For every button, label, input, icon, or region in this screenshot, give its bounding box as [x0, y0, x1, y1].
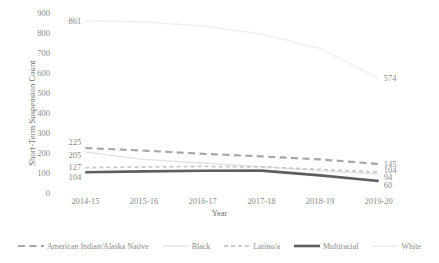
y-axis-tick: 900: [37, 9, 50, 18]
legend-line-icon: [18, 242, 44, 250]
line-chart: Short-Term Suspension Count 900800700600…: [0, 0, 439, 263]
legend-label: Latino/a: [253, 242, 280, 251]
x-axis-title: Year: [0, 208, 439, 218]
y-axis-tick: 500: [37, 89, 50, 98]
series-line: [85, 171, 378, 181]
data-point-label: 205: [69, 151, 82, 160]
y-axis-tick: 400: [37, 109, 50, 118]
data-point-label: 225: [69, 138, 82, 147]
y-axis-tick: 300: [37, 129, 50, 138]
legend-item[interactable]: White: [373, 242, 422, 251]
x-axis-tick: 2014-15: [71, 196, 99, 206]
plot-area: [56, 13, 408, 193]
legend-item[interactable]: Black: [163, 242, 211, 251]
data-point-label: 861: [69, 16, 82, 25]
x-axis-tick: 2017-18: [247, 196, 275, 206]
legend-label: White: [402, 242, 422, 251]
y-axis-tick: 700: [37, 49, 50, 58]
y-axis-tick: 800: [37, 29, 50, 38]
y-axis-tick: 600: [37, 69, 50, 78]
legend-label: American Indian/Alaska Native: [47, 242, 149, 251]
legend-item[interactable]: Multiracial: [294, 242, 359, 251]
series-line: [85, 148, 378, 164]
data-point-label: 60: [384, 181, 393, 190]
x-axis-tick: 2015-16: [130, 196, 158, 206]
x-axis-tick: 2016-17: [188, 196, 216, 206]
series-line: [85, 21, 378, 78]
data-point-label: 104: [69, 173, 82, 182]
legend-line-icon: [224, 242, 250, 250]
x-axis-tick: 2019-20: [364, 196, 392, 206]
y-axis-tick-labels: 9008007006005004003002001000: [16, 0, 50, 200]
data-point-label: 104: [384, 166, 397, 175]
legend-line-icon: [163, 242, 189, 250]
y-axis-tick: 200: [37, 149, 50, 158]
chart-legend: American Indian/Alaska NativeBlackLatino…: [0, 238, 439, 254]
legend-line-icon: [294, 242, 320, 250]
legend-item[interactable]: American Indian/Alaska Native: [18, 242, 149, 251]
x-axis-tick: 2018-19: [306, 196, 334, 206]
legend-item[interactable]: Latino/a: [224, 242, 280, 251]
legend-label: Black: [192, 242, 211, 251]
data-point-label: 574: [384, 74, 397, 83]
plot-svg: [56, 13, 408, 193]
data-point-label: 127: [69, 162, 82, 171]
legend-label: Multiracial: [323, 242, 359, 251]
y-axis-tick: 100: [37, 169, 50, 178]
y-axis-tick: 0: [46, 189, 50, 198]
legend-line-icon: [373, 242, 399, 250]
